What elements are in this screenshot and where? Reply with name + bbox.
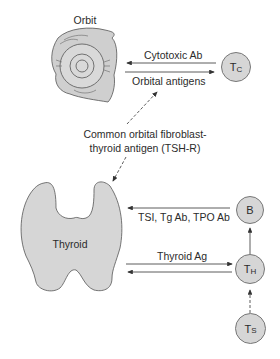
thyroid-icon [21, 182, 122, 291]
tc-main: T [230, 61, 237, 73]
to-thyroid-dashed-arrow [113, 157, 126, 181]
orbit-label: Orbit [70, 14, 100, 26]
thyroid-ag-label: Thyroid Ag [157, 250, 207, 262]
common-antigen-label-line2: thyroid antigen (TSH-R) [60, 142, 230, 154]
ts-sub: S [251, 326, 256, 335]
ts-main: T [244, 323, 251, 335]
cytotoxic-t-cell: TC [221, 52, 251, 82]
helper-t-cell: TH [235, 254, 265, 284]
antibodies-label: TSI, Tg Ab, TPO Ab [138, 211, 230, 223]
cytotoxic-ab-label: Cytotoxic Ab [144, 49, 202, 61]
orbital-antigens-label: Orbital antigens [132, 75, 206, 87]
orbit-icon [52, 28, 117, 102]
suppressor-t-cell: TS [235, 313, 266, 344]
thyroid-label: Thyroid [42, 238, 98, 250]
b-cell: B [236, 196, 264, 224]
th-main: T [244, 263, 251, 275]
th-sub: H [250, 267, 256, 276]
to-orbit-dashed-arrow [127, 92, 157, 124]
common-antigen-label-line1: Common orbital fibroblast- [60, 128, 230, 140]
b-main: B [246, 204, 253, 216]
tc-sub: C [236, 65, 242, 74]
